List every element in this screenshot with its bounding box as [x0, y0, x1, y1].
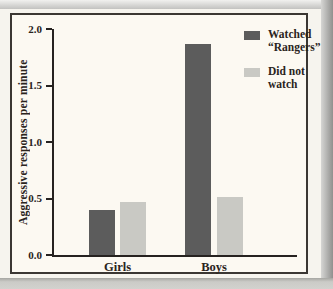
y-tick-label: 0.5 — [14, 193, 42, 204]
y-tick-mark — [46, 141, 52, 143]
figure-box: Aggressive responses per minute 2.01.51.… — [10, 13, 308, 274]
y-tick-label: 1.5 — [14, 80, 42, 91]
page-edge-top — [0, 0, 333, 9]
legend-swatch — [244, 31, 260, 40]
y-tick-mark — [46, 85, 52, 87]
y-tick-label: 1.0 — [14, 137, 42, 148]
bar-girls-did-not-watch — [120, 202, 146, 255]
bar-girls-watched-rangers — [89, 210, 115, 255]
y-tick-label: 0.0 — [14, 250, 42, 261]
bar-boys-watched-rangers — [185, 44, 211, 255]
legend: Watched“Rangers”Did notwatch — [244, 28, 320, 102]
legend-label: Did notwatch — [268, 65, 305, 91]
page-edge-right — [321, 0, 333, 289]
legend-label: Watched“Rangers” — [268, 28, 320, 54]
bar-boys-did-not-watch — [217, 197, 243, 255]
y-tick-mark — [46, 28, 52, 30]
x-category-label-girls: Girls — [88, 260, 148, 275]
legend-swatch — [244, 68, 260, 77]
page-edge-bottom — [0, 278, 333, 289]
legend-item-did-not-watch: Did notwatch — [244, 65, 320, 91]
y-tick-mark — [46, 198, 52, 200]
y-tick-mark — [46, 254, 52, 256]
y-tick-label: 2.0 — [14, 24, 42, 35]
scanned-figure-page: Aggressive responses per minute 2.01.51.… — [0, 0, 333, 289]
legend-item-watched-rangers: Watched“Rangers” — [244, 28, 320, 54]
x-category-label-boys: Boys — [184, 260, 244, 275]
